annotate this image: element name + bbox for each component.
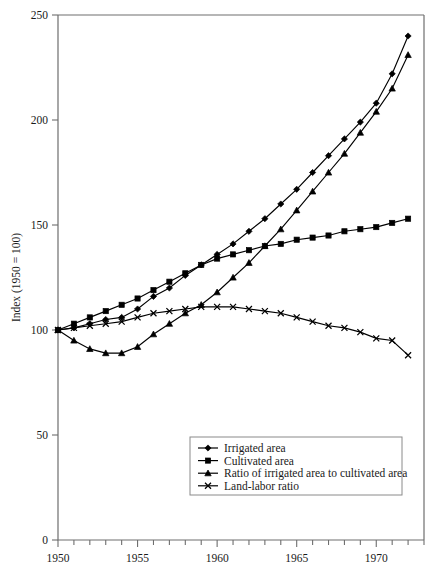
series-line bbox=[58, 55, 408, 353]
series-line bbox=[58, 36, 408, 330]
y-tick-label: 150 bbox=[31, 219, 49, 231]
data-point-square bbox=[151, 288, 156, 293]
x-tick-label: 1955 bbox=[126, 552, 149, 564]
data-point-square bbox=[103, 309, 108, 314]
data-point-triangle bbox=[71, 337, 77, 343]
legend-item-label: Cultivated area bbox=[224, 455, 294, 467]
data-point-square bbox=[246, 248, 251, 253]
data-point-square bbox=[230, 252, 235, 257]
data-point-square bbox=[342, 229, 347, 234]
data-point-triangle bbox=[405, 52, 411, 58]
chart-container: 05010015020025019501955196019651970Index… bbox=[0, 0, 440, 584]
data-point-square bbox=[167, 279, 172, 284]
series-line bbox=[58, 307, 408, 355]
data-point-square bbox=[135, 296, 140, 301]
y-tick-label: 0 bbox=[42, 534, 48, 546]
legend-item-label: Ratio of irrigated area to cultivated ar… bbox=[224, 467, 407, 480]
legend-item-label: Irrigated area bbox=[224, 442, 286, 455]
y-tick-label: 100 bbox=[31, 324, 49, 336]
data-point-square bbox=[87, 315, 92, 320]
legend-item[interactable]: Ratio of irrigated area to cultivated ar… bbox=[198, 467, 407, 480]
data-point-square bbox=[119, 302, 124, 307]
data-point-square bbox=[205, 458, 210, 463]
y-axis-title: Index (1950 = 100) bbox=[10, 233, 23, 322]
x-tick-label: 1970 bbox=[365, 552, 388, 564]
x-tick-label: 1965 bbox=[285, 552, 308, 564]
y-tick-label: 200 bbox=[31, 114, 49, 126]
data-point-triangle bbox=[87, 346, 93, 352]
series-1 bbox=[55, 33, 411, 333]
data-point-square bbox=[358, 227, 363, 232]
data-point-square bbox=[199, 262, 204, 267]
y-tick-label: 250 bbox=[31, 9, 49, 21]
line-chart: 05010015020025019501955196019651970Index… bbox=[0, 0, 440, 584]
data-point-square bbox=[405, 216, 410, 221]
data-point-diamond bbox=[405, 33, 411, 39]
data-point-square bbox=[310, 235, 315, 240]
data-point-square bbox=[278, 241, 283, 246]
data-point-triangle bbox=[166, 321, 172, 327]
data-point-diamond bbox=[389, 71, 395, 77]
data-point-triangle bbox=[389, 85, 395, 91]
data-point-square bbox=[374, 225, 379, 230]
data-point-x bbox=[405, 352, 411, 358]
y-tick-label: 50 bbox=[37, 429, 49, 441]
data-point-square bbox=[390, 220, 395, 225]
data-point-square bbox=[183, 271, 188, 276]
legend-item-label: Land-labor ratio bbox=[224, 480, 299, 492]
data-point-triangle bbox=[150, 331, 156, 337]
legend: Irrigated areaCultivated areaRatio of ir… bbox=[190, 437, 407, 495]
x-tick-label: 1950 bbox=[47, 552, 70, 564]
data-point-square bbox=[326, 233, 331, 238]
data-point-square bbox=[294, 237, 299, 242]
data-point-square bbox=[215, 256, 220, 261]
x-tick-label: 1960 bbox=[206, 552, 229, 564]
